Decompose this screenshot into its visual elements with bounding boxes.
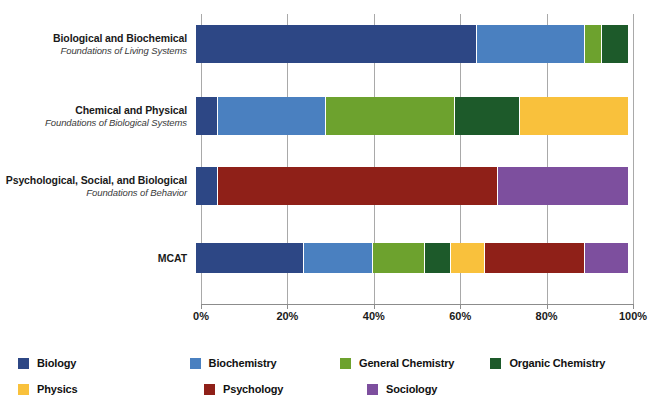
stacked-bar bbox=[196, 97, 628, 135]
stacked-bar bbox=[196, 243, 628, 273]
category-label-main: Biological and Biochemical bbox=[0, 32, 187, 45]
category-label: Psychological, Social, and BiologicalFou… bbox=[0, 174, 196, 199]
bar-segment-physics bbox=[520, 97, 628, 135]
legend-item-physics[interactable]: Physics bbox=[18, 383, 204, 395]
legend-label: Psychology bbox=[223, 383, 283, 395]
bar-segment-biochemistry bbox=[477, 25, 585, 63]
category-label-main: Psychological, Social, and Biological bbox=[0, 174, 187, 187]
bar-segment-general-chemistry bbox=[373, 243, 425, 273]
x-tick bbox=[374, 304, 375, 309]
legend-item-general-chemistry[interactable]: General Chemistry bbox=[340, 357, 490, 369]
x-tick bbox=[547, 304, 548, 309]
bar-segment-organic-chemistry bbox=[425, 243, 451, 273]
bar-segment-biology bbox=[196, 167, 218, 205]
x-tick-label: 100% bbox=[619, 310, 647, 322]
x-tick bbox=[287, 304, 288, 309]
chart-legend: BiologyBiochemistryGeneral ChemistryOrga… bbox=[18, 350, 638, 402]
category-label-sub: Foundations of Biological Systems bbox=[0, 117, 187, 129]
legend-row: PhysicsPsychologySociology bbox=[18, 376, 638, 402]
legend-label: General Chemistry bbox=[359, 357, 454, 369]
category-label: Chemical and PhysicalFoundations of Biol… bbox=[0, 104, 196, 129]
bar-segment-biology bbox=[196, 25, 477, 63]
category-label: MCAT bbox=[0, 252, 196, 265]
chart-row: Chemical and PhysicalFoundations of Biol… bbox=[0, 94, 655, 138]
bar-segment-sociology bbox=[498, 167, 628, 205]
category-label-sub: Foundations of Living Systems bbox=[0, 45, 187, 57]
stacked-bar bbox=[196, 167, 628, 205]
legend-label: Sociology bbox=[386, 383, 437, 395]
legend-item-organic-chemistry[interactable]: Organic Chemistry bbox=[490, 357, 638, 369]
category-label-main: Chemical and Physical bbox=[0, 104, 187, 117]
stacked-bar-chart: Biological and BiochemicalFoundations of… bbox=[0, 0, 655, 411]
x-tick bbox=[460, 304, 461, 309]
legend-swatch-icon bbox=[18, 358, 29, 369]
legend-swatch-icon bbox=[204, 384, 215, 395]
x-tick-label: 80% bbox=[536, 310, 558, 322]
legend-label: Biology bbox=[37, 357, 76, 369]
bar-segment-biology bbox=[196, 97, 218, 135]
legend-swatch-icon bbox=[490, 358, 501, 369]
x-tick-label: 40% bbox=[363, 310, 385, 322]
legend-item-biochemistry[interactable]: Biochemistry bbox=[190, 357, 340, 369]
x-tick-label: 0% bbox=[193, 310, 209, 322]
legend-swatch-icon bbox=[190, 358, 201, 369]
bar-segment-psychology bbox=[485, 243, 584, 273]
chart-row: Psychological, Social, and BiologicalFou… bbox=[0, 164, 655, 208]
stacked-bar bbox=[196, 25, 628, 63]
x-tick-label: 20% bbox=[276, 310, 298, 322]
legend-item-psychology[interactable]: Psychology bbox=[204, 383, 367, 395]
bar-segment-sociology bbox=[585, 243, 628, 273]
bar-segment-biology bbox=[196, 243, 304, 273]
bar-segment-biochemistry bbox=[304, 243, 373, 273]
bar-segment-biochemistry bbox=[218, 97, 326, 135]
legend-label: Physics bbox=[37, 383, 78, 395]
legend-label: Organic Chemistry bbox=[509, 357, 605, 369]
bar-segment-psychology bbox=[218, 167, 499, 205]
legend-swatch-icon bbox=[18, 384, 29, 395]
bar-segment-general-chemistry bbox=[585, 25, 602, 63]
bar-segment-organic-chemistry bbox=[602, 25, 628, 63]
x-tick bbox=[201, 304, 202, 309]
legend-row: BiologyBiochemistryGeneral ChemistryOrga… bbox=[18, 350, 638, 376]
legend-item-biology[interactable]: Biology bbox=[18, 357, 190, 369]
legend-item-sociology[interactable]: Sociology bbox=[367, 383, 530, 395]
x-tick-label: 60% bbox=[449, 310, 471, 322]
legend-swatch-icon bbox=[367, 384, 378, 395]
category-label-sub: Foundations of Behavior bbox=[0, 187, 187, 199]
bar-segment-organic-chemistry bbox=[455, 97, 520, 135]
category-label: Biological and BiochemicalFoundations of… bbox=[0, 32, 196, 57]
legend-swatch-icon bbox=[340, 358, 351, 369]
x-tick bbox=[633, 304, 634, 309]
category-label-main: MCAT bbox=[0, 252, 187, 265]
chart-row: Biological and BiochemicalFoundations of… bbox=[0, 22, 655, 66]
chart-row: MCAT bbox=[0, 236, 655, 280]
bar-segment-general-chemistry bbox=[326, 97, 456, 135]
bar-segment-physics bbox=[451, 243, 486, 273]
x-axis-line bbox=[201, 304, 634, 305]
legend-label: Biochemistry bbox=[209, 357, 277, 369]
